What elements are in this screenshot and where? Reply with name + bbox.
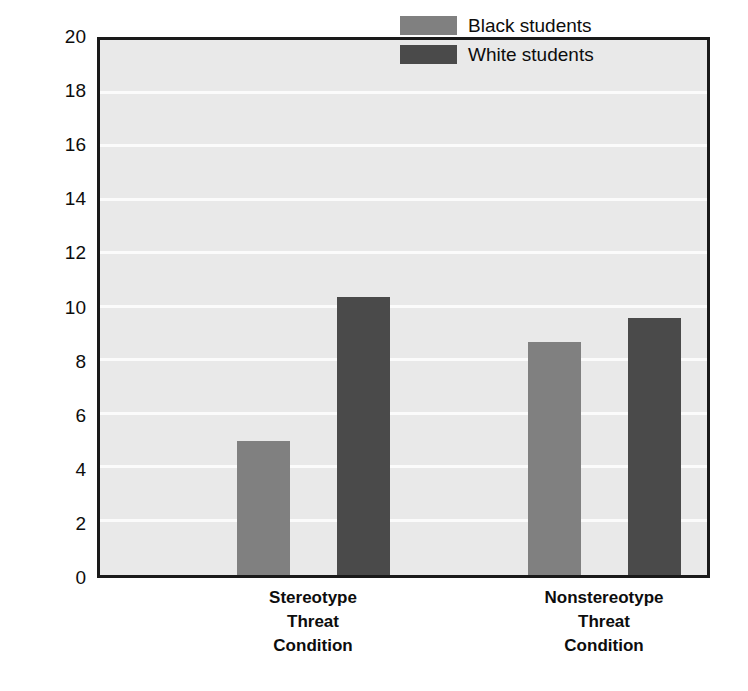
x-axis-group-label: NonstereotypeThreatCondition: [484, 586, 724, 658]
y-axis-title: Number of Items Solved: [14, 0, 44, 67]
gridline: [100, 465, 707, 468]
gridline: [100, 519, 707, 522]
plot-area: [97, 37, 710, 578]
y-axis-tick-labels: 02468101214161820: [46, 37, 92, 578]
legend-swatch: [400, 16, 457, 35]
y-axis-tick-label: 4: [75, 458, 86, 482]
y-axis-tick-label: 2: [75, 512, 86, 536]
gridline: [100, 412, 707, 415]
x-axis-group-label-line: Nonstereotype: [484, 586, 724, 610]
y-axis-tick-label: 20: [65, 25, 86, 49]
x-axis-group-label-line: Stereotype: [193, 586, 433, 610]
x-axis-group-label: StereotypeThreatCondition: [193, 586, 433, 658]
y-axis-tick-label: 18: [65, 79, 86, 103]
gridline: [100, 144, 707, 147]
gridline: [100, 358, 707, 361]
x-axis-group-label-line: Threat: [193, 610, 433, 634]
gridline: [100, 251, 707, 254]
bar-chart-figure: Number of Items Solved 02468101214161820…: [0, 0, 748, 691]
x-axis-group-label-line: Condition: [193, 634, 433, 658]
chart-legend: Black studentsWhite students: [400, 11, 606, 69]
y-axis-tick-label: 16: [65, 133, 86, 157]
legend-item: Black students: [400, 11, 606, 40]
y-axis-tick-label: 8: [75, 350, 86, 374]
legend-label: Black students: [468, 15, 592, 37]
x-axis-group-label-line: Threat: [484, 610, 724, 634]
y-axis-tick-label: 14: [65, 187, 86, 211]
legend-swatch: [400, 45, 457, 64]
legend-item: White students: [400, 40, 606, 69]
gridline: [100, 91, 707, 94]
y-axis-tick-label: 0: [75, 566, 86, 590]
gridline: [100, 198, 707, 201]
bar: [237, 441, 290, 575]
bar: [528, 342, 581, 575]
y-axis-tick-label: 10: [65, 296, 86, 320]
bar: [628, 318, 681, 575]
y-axis-tick-label: 12: [65, 241, 86, 265]
legend-label: White students: [468, 44, 594, 66]
plot-inner: [100, 40, 707, 575]
bar: [337, 297, 390, 575]
x-axis-group-label-line: Condition: [484, 634, 724, 658]
gridline: [100, 305, 707, 308]
y-axis-tick-label: 6: [75, 404, 86, 428]
